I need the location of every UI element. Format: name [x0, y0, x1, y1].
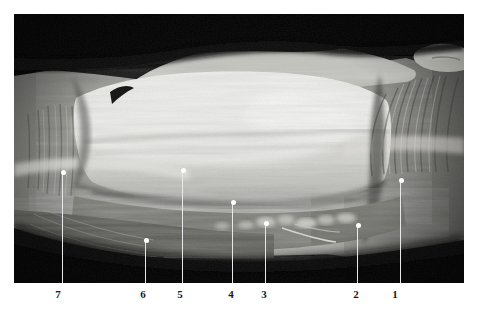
callout-label-7: 7 [51, 288, 65, 301]
anatomical-photograph [14, 14, 464, 283]
figure-root: 7654321 [0, 0, 478, 318]
callout-label-6: 6 [136, 288, 150, 301]
photograph-content [14, 14, 464, 283]
callout-label-2: 2 [349, 288, 363, 301]
callout-label-4: 4 [224, 288, 238, 301]
callout-label-3: 3 [257, 288, 271, 301]
callout-label-5: 5 [173, 288, 187, 301]
callout-label-1: 1 [388, 288, 402, 301]
